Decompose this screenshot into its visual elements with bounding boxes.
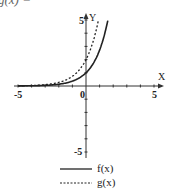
y-tick-label-max: 5 bbox=[79, 15, 84, 26]
x-tick-label-min: -5 bbox=[14, 89, 22, 100]
series-f-line bbox=[18, 21, 108, 86]
x-tick-label-zero: 0 bbox=[80, 89, 85, 100]
x-axis-label: X bbox=[158, 71, 166, 82]
legend-f-label: f(x) bbox=[97, 162, 114, 174]
legend-g-label: g(x) bbox=[97, 176, 115, 188]
y-axis-label: Y bbox=[89, 12, 96, 23]
y-tick-label-min: -5 bbox=[74, 146, 82, 157]
x-axis-arrow-icon bbox=[158, 84, 164, 89]
plot-area: X Y -5 0 5 5 -5 bbox=[0, 0, 171, 191]
y-axis-arrow-icon bbox=[84, 13, 89, 19]
x-tick-label-max: 5 bbox=[152, 89, 157, 100]
